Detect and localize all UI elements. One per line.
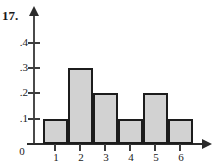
x-axis-tick (154, 144, 156, 151)
x-axis-tick-label: 6 (174, 151, 188, 163)
x-axis-tick-label: 3 (99, 151, 113, 163)
y-axis-tick-label: .3 (6, 61, 28, 73)
y-axis-tick-label-text: .1 (10, 112, 28, 124)
x-axis-tick-label: 1 (49, 151, 63, 163)
x-axis-tick (79, 144, 81, 151)
y-axis-tick-label-text: .4 (10, 36, 28, 48)
x-axis-tick-label: 5 (149, 151, 163, 163)
x-axis-tick-label: 4 (124, 151, 138, 163)
x-axis-tick (54, 144, 56, 151)
axis-origin-label: 0 (15, 145, 29, 157)
y-axis-tick-label-text: .3 (10, 61, 28, 73)
histogram-bar (143, 93, 168, 144)
y-axis-tick-label: .1 (6, 112, 28, 124)
x-axis-arrow-icon (202, 139, 212, 149)
problem-number-label: 17. (2, 8, 18, 24)
y-axis-tick-label: .2 (6, 86, 28, 98)
y-axis-arrow-icon (29, 6, 39, 16)
y-axis-tick (28, 42, 40, 44)
histogram-bar (93, 93, 118, 144)
y-axis-line (33, 14, 35, 144)
histogram-figure: 17. 0 .1.2.3.4 123456 (0, 0, 218, 167)
x-axis-tick (129, 144, 131, 151)
histogram-bar (43, 119, 68, 144)
x-axis-tick (179, 144, 181, 151)
y-axis-tick (28, 92, 40, 94)
y-axis-tick-label-text: .2 (10, 86, 28, 98)
y-axis-tick (28, 67, 40, 69)
x-axis-tick (104, 144, 106, 151)
histogram-bar (68, 68, 93, 144)
histogram-bar (118, 119, 143, 144)
y-axis-tick (28, 118, 40, 120)
x-axis-tick-label: 2 (74, 151, 88, 163)
y-axis-tick-label: .4 (6, 36, 28, 48)
histogram-bar (168, 119, 193, 144)
